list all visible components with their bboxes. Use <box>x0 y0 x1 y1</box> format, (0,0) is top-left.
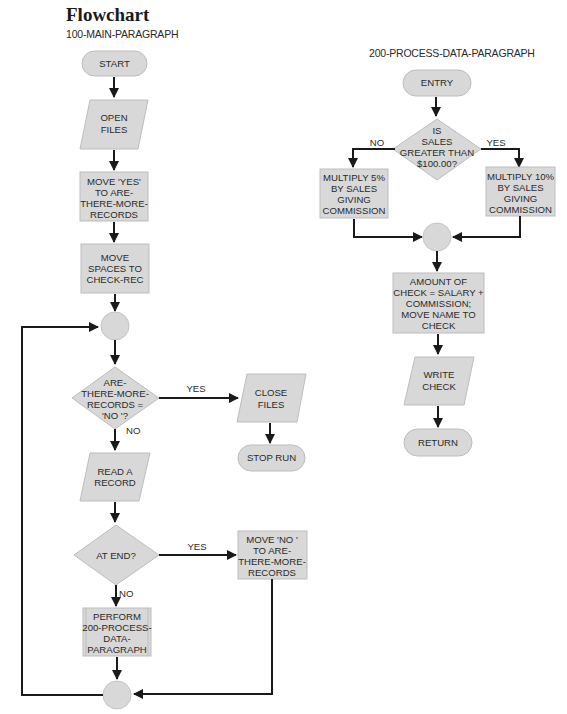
read-record-label: RECORD <box>94 477 136 488</box>
sub-flow: ENTRY IS SALES GREATER THAN $100.00? NO … <box>320 70 555 456</box>
multiply-5-label: MULTIPLY 5% <box>323 172 385 183</box>
decision-sales-label: $100.00? <box>417 158 457 169</box>
move-no-label: MOVE 'NO ' <box>246 534 298 545</box>
amount-check-label: COMMISSION; <box>406 298 472 309</box>
start-label: START <box>99 58 130 69</box>
multiply-5-label: COMMISSION <box>323 205 386 216</box>
move-spaces-label: MOVE <box>101 252 129 263</box>
move-spaces-process[interactable]: MOVE SPACES TO CHECK-REC <box>81 244 149 293</box>
perform-label: DATA- <box>103 633 130 644</box>
multiply-10-label: GIVING <box>504 193 538 204</box>
multiply-10-process[interactable]: MULTIPLY 10% BY SALES GIVING COMMISSION <box>486 167 555 216</box>
open-files-label: FILES <box>101 124 128 135</box>
yes-label: YES <box>186 383 205 394</box>
close-files-label: FILES <box>258 399 285 410</box>
multiply-10-label: BY SALES <box>497 182 543 193</box>
write-check-label: CHECK <box>422 381 456 392</box>
amount-check-label: CHECK = SALARY + <box>393 287 484 298</box>
stop-run-label: STOP RUN <box>247 452 296 463</box>
move-yes-label: TO ARE- <box>95 187 133 198</box>
read-record-io[interactable]: READ A RECORD <box>80 453 150 501</box>
open-files-label: OPEN <box>100 112 127 123</box>
arrow <box>453 216 520 237</box>
close-files-io[interactable]: CLOSE FILES <box>237 374 306 422</box>
arrow <box>481 149 519 167</box>
perform-label: 200-PROCESS- <box>82 622 151 633</box>
move-yes-process[interactable]: MOVE 'YES' TO ARE- THERE-MORE- RECORDS <box>80 172 148 221</box>
multiply-10-label: MULTIPLY 10% <box>487 171 555 182</box>
decision-more-label: THERE-MORE- <box>81 388 149 399</box>
decision-sales-label: GREATER THAN <box>400 147 474 158</box>
decision-more-records[interactable]: ARE- THERE-MORE- RECORDS = 'NO '? <box>72 367 159 429</box>
entry-terminal[interactable]: ENTRY <box>403 70 471 96</box>
move-no-label: RECORDS <box>248 567 296 578</box>
decision-more-label: ARE- <box>104 377 127 388</box>
decision-sales-label: SALES <box>422 136 453 147</box>
close-files-label: CLOSE <box>255 387 288 398</box>
move-yes-label: THERE-MORE- <box>80 198 148 209</box>
perform-predefined-process[interactable]: PERFORM 200-PROCESS- DATA- PARAGRAPH <box>82 608 151 656</box>
move-spaces-label: CHECK-REC <box>86 274 143 285</box>
move-yes-label: MOVE 'YES' <box>87 176 141 187</box>
decision-sales[interactable]: IS SALES GREATER THAN $100.00? <box>393 119 481 180</box>
multiply-5-label: GIVING <box>337 194 371 205</box>
amount-check-label: CHECK <box>422 320 456 331</box>
yes-label: YES <box>486 137 505 148</box>
arrow <box>354 219 422 237</box>
entry-label: ENTRY <box>421 77 454 88</box>
no-label: NO <box>370 137 384 148</box>
decision-sales-label: IS <box>432 125 441 136</box>
return-terminal[interactable]: RETURN <box>404 429 472 456</box>
write-check-label: WRITE <box>424 369 455 380</box>
no-label: NO <box>126 425 140 436</box>
main-flow: START OPEN FILES MOVE 'YES' TO ARE- THER… <box>22 51 307 709</box>
move-spaces-label: SPACES TO <box>88 263 142 274</box>
read-record-label: READ A <box>97 466 133 477</box>
multiply-5-process[interactable]: MULTIPLY 5% BY SALES GIVING COMMISSION <box>320 169 388 218</box>
move-no-label: TO ARE- <box>253 545 291 556</box>
decision-more-label: RECORDS = <box>87 399 144 410</box>
decision-at-end[interactable]: AT END? <box>74 525 159 585</box>
amount-check-label: MOVE NAME TO <box>401 309 475 320</box>
multiply-5-label: BY SALES <box>331 183 377 194</box>
no-label: NO <box>119 588 133 599</box>
perform-label: PERFORM <box>93 611 141 622</box>
amount-check-label: AMOUNT OF <box>410 276 468 287</box>
write-check-io[interactable]: WRITE CHECK <box>404 357 474 405</box>
multiply-10-label: COMMISSION <box>489 204 552 215</box>
decision-more-label: 'NO '? <box>102 410 128 421</box>
start-terminal[interactable]: START <box>82 51 147 76</box>
decision-end-label: AT END? <box>96 550 136 561</box>
stop-run-terminal[interactable]: STOP RUN <box>238 445 305 471</box>
return-label: RETURN <box>418 437 458 448</box>
perform-label: PARAGRAPH <box>87 644 147 655</box>
move-no-process[interactable]: MOVE 'NO ' TO ARE- THERE-MORE- RECORDS <box>238 531 307 579</box>
yes-label: YES <box>187 541 206 552</box>
connector-top <box>101 312 129 340</box>
amount-check-process[interactable]: AMOUNT OF CHECK = SALARY + COMMISSION; M… <box>393 273 484 333</box>
move-yes-label: RECORDS <box>90 209 138 220</box>
arrow <box>134 579 272 694</box>
connector-bottom <box>103 681 131 709</box>
open-files-io[interactable]: OPEN FILES <box>80 100 148 149</box>
move-no-label: THERE-MORE- <box>238 556 306 567</box>
arrow <box>353 149 395 167</box>
flowchart-canvas: START OPEN FILES MOVE 'YES' TO ARE- THER… <box>0 0 567 714</box>
connector-sub <box>423 223 451 251</box>
